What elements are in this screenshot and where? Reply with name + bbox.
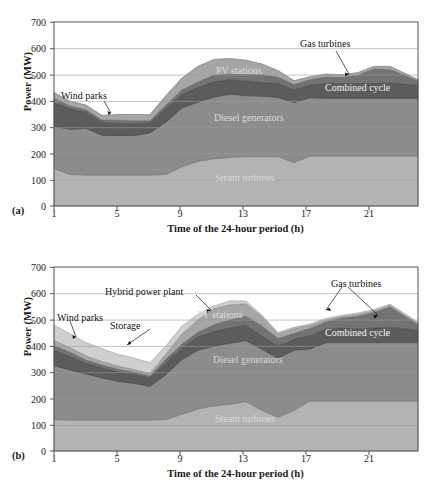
y-tick-marks-b <box>50 267 54 451</box>
annot-diesel-generators-a: Diesel generators <box>214 112 284 123</box>
panel-tag-a: (a) <box>12 205 24 216</box>
panel-tag-b: (b) <box>12 450 25 461</box>
annot-diesel-generators-b: Diesel generators <box>213 354 283 365</box>
x-tick-marks-b <box>54 451 369 455</box>
annot-gas-turbines-b: Gas turbines <box>331 278 381 289</box>
annot-combined-cycle-b: Combined cycle <box>325 327 390 338</box>
annot-combined-cycle-a: Combined cycle <box>325 82 390 93</box>
annot-pv-stations-b: PV stations <box>197 309 243 320</box>
x-axis-label-b: Time of the 24-hour period (h) <box>53 468 418 479</box>
chart-panel-b: Power (MW) 700 600 500 400 300 200 100 0… <box>0 245 432 489</box>
chart-panel-a: Power (MW) 700 600 500 400 300 200 100 0… <box>0 0 432 244</box>
annot-pv-stations-a: PV stations <box>216 65 262 76</box>
annot-storage-b: Storage <box>110 320 141 331</box>
annot-steam-turbines-b: Steam turbines <box>215 413 275 424</box>
annot-wind-parks-b: Wind parks <box>57 312 103 323</box>
figure-stacked-area-charts: Power (MW) 700 600 500 400 300 200 100 0… <box>0 0 432 489</box>
x-axis-label-a: Time of the 24-hour period (h) <box>53 223 418 234</box>
y-tick-marks-a <box>50 22 54 206</box>
annot-wind-parks-a: Wind parks <box>61 90 107 101</box>
annot-gas-turbines-a: Gas turbines <box>300 38 350 49</box>
annot-steam-turbines-a: Steam turbines <box>215 172 275 183</box>
annot-hybrid-power-plant-b: Hybrid power plant <box>105 286 183 297</box>
x-tick-marks-a <box>54 206 369 210</box>
